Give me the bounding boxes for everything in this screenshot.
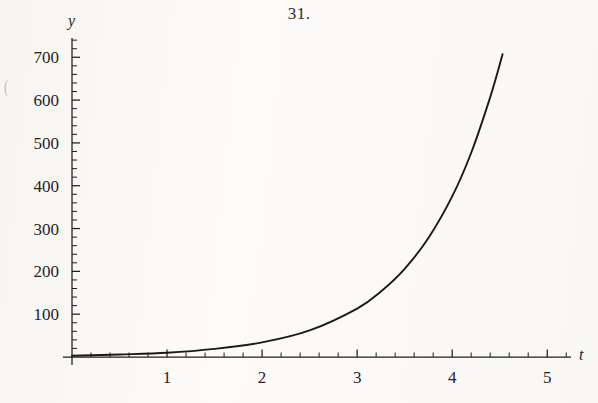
x-axis-label: t <box>579 346 584 363</box>
y-tick-label: 500 <box>34 134 60 153</box>
x-tick-label: 2 <box>258 368 267 387</box>
x-tick-label: 5 <box>543 368 552 387</box>
y-axis-minor-ticks <box>72 40 77 348</box>
y-axis-label: y <box>66 12 76 30</box>
y-tick-label: 100 <box>34 305 60 324</box>
y-tick-label: 700 <box>34 48 60 67</box>
figure-container: 31. ( 12345 100200300400500600700 y t <box>0 0 598 403</box>
y-tick-label: 200 <box>34 262 60 281</box>
y-tick-label: 300 <box>34 220 60 239</box>
y-axis-tick-labels: 100200300400500600700 <box>34 48 60 324</box>
y-tick-label: 600 <box>34 91 60 110</box>
x-tick-label: 3 <box>353 368 362 387</box>
x-tick-label: 1 <box>163 368 172 387</box>
data-curve <box>72 54 503 355</box>
x-axis-tick-labels: 12345 <box>163 368 552 387</box>
y-tick-label: 400 <box>34 177 60 196</box>
y-axis-major-ticks <box>72 57 80 314</box>
chart-svg: 12345 100200300400500600700 y t <box>0 0 598 403</box>
x-tick-label: 4 <box>448 368 457 387</box>
